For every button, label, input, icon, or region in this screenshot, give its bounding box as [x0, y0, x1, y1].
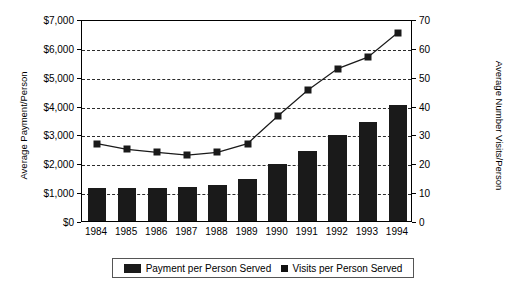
chart-legend: Payment per Person Served Visits per Per… [112, 258, 414, 278]
y-tick-label-left: $2,000 [0, 159, 74, 170]
x-tick-label: 1993 [356, 226, 378, 237]
y-tick-label-left: $0 [0, 217, 74, 228]
y-tick-label-right: 30 [419, 130, 453, 141]
chart-figure: Average Payment/Person Average Number Vi… [0, 0, 526, 288]
x-tick-label: 1991 [296, 226, 318, 237]
data-point-marker [274, 113, 281, 120]
data-point-marker [394, 29, 401, 36]
y-tick-label-left: $7,000 [0, 15, 74, 26]
line-series [82, 21, 413, 223]
data-point-marker [124, 146, 131, 153]
x-tick-label: 1994 [386, 226, 408, 237]
x-tick-label: 1988 [205, 226, 227, 237]
square-marker-icon [281, 265, 288, 272]
data-point-marker [154, 149, 161, 156]
legend-label-payment: Payment per Person Served [146, 263, 272, 274]
y-axis-right-title: Average Number Visits/Person [494, 51, 505, 201]
y-tick-label-right: 50 [419, 72, 453, 83]
data-point-marker [304, 87, 311, 94]
data-point-marker [94, 140, 101, 147]
data-point-marker [364, 54, 371, 61]
y-tick-label-left: $4,000 [0, 101, 74, 112]
y-tick-label-right: 10 [419, 188, 453, 199]
y-tick-label-right: 40 [419, 101, 453, 112]
plot-area [81, 20, 412, 222]
y-tick-label-right: 70 [419, 15, 453, 26]
y-tick-label-left: $3,000 [0, 130, 74, 141]
x-tick-label: 1985 [115, 226, 137, 237]
data-point-marker [334, 65, 341, 72]
bar-swatch-icon [124, 264, 141, 273]
y-tick-label-left: $5,000 [0, 72, 74, 83]
data-point-marker [184, 152, 191, 159]
legend-label-visits: Visits per Person Served [293, 263, 403, 274]
legend-item-visits: Visits per Person Served [281, 263, 403, 274]
x-tick-label: 1986 [145, 226, 167, 237]
x-tick-label: 1989 [235, 226, 257, 237]
data-point-marker [244, 140, 251, 147]
y-tick-label-right: 20 [419, 159, 453, 170]
data-point-marker [214, 149, 221, 156]
y-tick-label-left: $6,000 [0, 43, 74, 54]
y-tick-label-right: 60 [419, 43, 453, 54]
x-tick-label: 1990 [265, 226, 287, 237]
tick-mark [77, 222, 81, 223]
y-tick-label-right: 0 [419, 217, 453, 228]
x-tick-label: 1992 [326, 226, 348, 237]
x-tick-label: 1987 [175, 226, 197, 237]
x-tick-label: 1984 [85, 226, 107, 237]
legend-item-payment: Payment per Person Served [124, 263, 272, 274]
y-tick-label-left: $1,000 [0, 188, 74, 199]
